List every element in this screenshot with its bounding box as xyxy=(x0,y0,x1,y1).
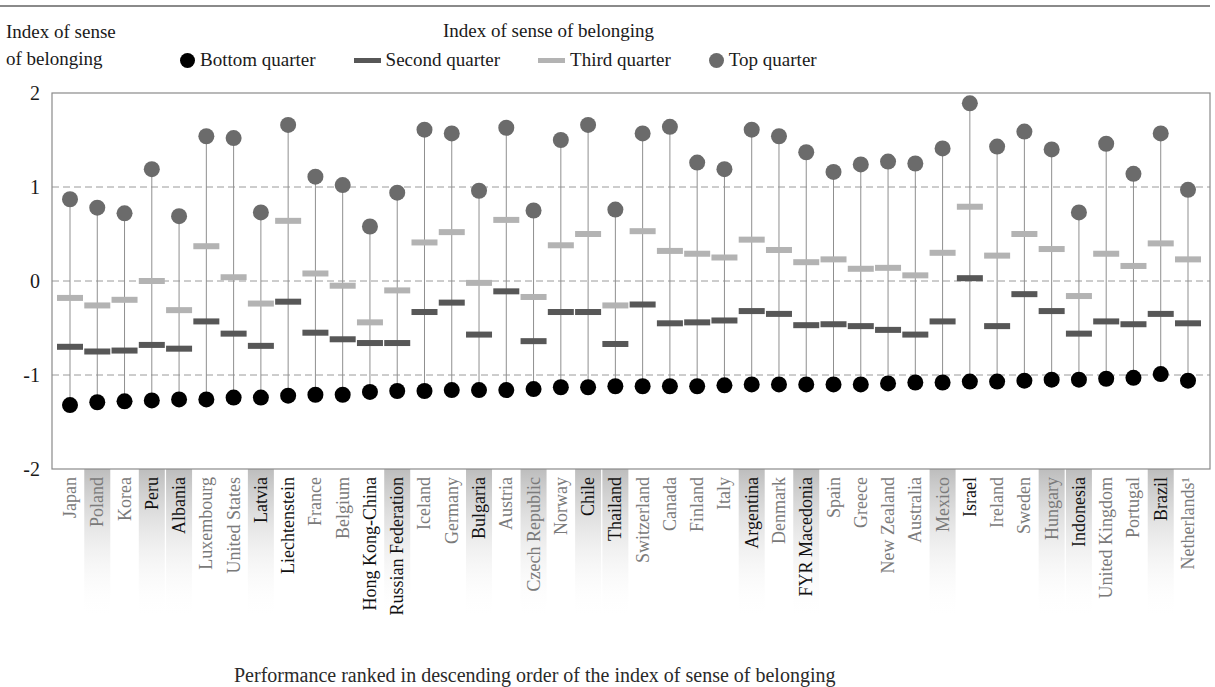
x-axis-country-label: Finland xyxy=(687,477,707,532)
second-quarter-marker xyxy=(384,340,410,346)
second-quarter-marker xyxy=(548,309,574,315)
bottom-quarter-marker xyxy=(471,382,487,398)
x-axis-country-label: Liechtenstein xyxy=(278,477,298,574)
top-quarter-marker xyxy=(798,144,814,160)
top-quarter-marker xyxy=(1098,136,1114,152)
top-quarter-marker xyxy=(389,185,405,201)
country-point-group xyxy=(330,177,356,403)
second-quarter-marker xyxy=(357,340,383,346)
bottom-quarter-marker xyxy=(1125,370,1141,386)
shaded-columns xyxy=(84,469,1173,619)
top-quarter-marker xyxy=(989,139,1005,155)
second-quarter-marker xyxy=(930,318,956,324)
third-quarter-marker xyxy=(1066,293,1092,299)
second-quarter-marker xyxy=(330,336,356,342)
bottom-quarter-marker xyxy=(1098,371,1114,387)
second-quarter-marker xyxy=(739,308,765,314)
x-axis-country-label: Belgium xyxy=(333,477,353,539)
top-quarter-marker xyxy=(689,155,705,171)
second-quarter-marker xyxy=(1093,318,1119,324)
bottom-quarter-marker xyxy=(771,376,787,392)
country-point-group xyxy=(493,120,519,398)
top-quarter-marker xyxy=(907,156,923,172)
x-axis-country-label: France xyxy=(305,477,325,526)
second-quarter-marker xyxy=(248,343,274,349)
third-quarter-marker xyxy=(221,274,247,280)
top-quarter-marker xyxy=(89,200,105,216)
third-quarter-marker xyxy=(248,301,274,307)
bottom-quarter-marker xyxy=(880,375,896,391)
second-quarter-marker xyxy=(493,288,519,294)
x-axis-country-label: Sweden xyxy=(1014,477,1034,534)
x-axis-country-label: Poland xyxy=(87,477,107,527)
second-quarter-marker xyxy=(848,323,874,329)
x-axis-country-label: Ireland xyxy=(987,477,1007,528)
top-quarter-marker xyxy=(471,183,487,199)
y-tick-label: 0 xyxy=(30,270,40,292)
second-quarter-marker xyxy=(575,309,601,315)
second-quarter-marker xyxy=(875,327,901,333)
bottom-quarter-marker xyxy=(853,376,869,392)
third-quarter-marker xyxy=(1093,251,1119,257)
x-axis-country-label: Australia xyxy=(905,477,925,543)
third-quarter-marker xyxy=(902,272,928,278)
second-quarter-marker xyxy=(902,332,928,338)
country-point-group xyxy=(193,128,219,407)
third-quarter-marker xyxy=(193,243,219,249)
second-quarter-marker xyxy=(793,322,819,328)
top-quarter-marker xyxy=(280,117,296,133)
x-axis-country-label: Luxembourg xyxy=(196,477,216,570)
country-point-group xyxy=(548,132,574,395)
x-axis-country-label: Canada xyxy=(660,477,680,531)
top-quarter-marker xyxy=(171,208,187,224)
y-tick-label: 2 xyxy=(30,82,40,104)
country-point-group xyxy=(848,156,874,392)
bottom-quarter-marker xyxy=(935,375,951,391)
bottom-quarter-marker xyxy=(962,374,978,390)
second-quarter-marker xyxy=(630,302,656,308)
top-quarter-marker xyxy=(607,202,623,218)
top-quarter-marker xyxy=(1016,124,1032,140)
chart-caption: Performance ranked in descending order o… xyxy=(234,664,835,687)
country-point-group xyxy=(139,161,165,408)
x-axis-country-label: Portugal xyxy=(1123,477,1143,538)
top-quarter-marker xyxy=(553,132,569,148)
third-quarter-marker xyxy=(930,250,956,256)
third-quarter-marker xyxy=(57,295,83,301)
second-quarter-marker xyxy=(139,342,165,348)
third-quarter-marker xyxy=(1175,256,1201,262)
x-axis-country-label: United States xyxy=(224,477,244,574)
bottom-quarter-marker xyxy=(226,390,242,406)
second-quarter-marker xyxy=(711,317,737,323)
country-point-group xyxy=(984,139,1010,390)
country-point-group xyxy=(902,156,928,391)
x-axis-country-label: Russian Federation xyxy=(387,477,407,615)
country-point-group xyxy=(711,161,737,393)
third-quarter-marker xyxy=(330,283,356,289)
x-axis-country-label: Hong Kong-China xyxy=(360,477,380,611)
country-point-group xyxy=(166,208,192,407)
top-quarter-marker xyxy=(526,203,542,219)
x-axis-labels: JapanPolandKoreaPeruAlbaniaLuxembourgUni… xyxy=(60,477,1198,615)
second-quarter-marker xyxy=(984,323,1010,329)
country-point-group xyxy=(739,122,765,393)
country-point-group xyxy=(411,122,437,399)
x-axis-country-label: Switzerland xyxy=(633,477,653,563)
bottom-quarter-marker xyxy=(716,377,732,393)
country-point-group xyxy=(957,95,983,389)
y-tick-label: -2 xyxy=(23,458,40,480)
second-quarter-marker xyxy=(411,309,437,315)
x-axis-country-label: Bulgaria xyxy=(469,477,489,539)
x-axis-country-label: Greece xyxy=(851,477,871,528)
bottom-quarter-marker xyxy=(689,378,705,394)
third-quarter-marker xyxy=(1039,246,1065,252)
country-point-group xyxy=(84,200,110,411)
country-point-group xyxy=(1148,125,1174,382)
third-quarter-marker xyxy=(848,266,874,272)
bottom-quarter-marker xyxy=(607,378,623,394)
second-quarter-marker xyxy=(112,348,138,354)
top-quarter-marker xyxy=(880,154,896,170)
third-quarter-marker xyxy=(493,217,519,223)
third-quarter-marker xyxy=(384,287,410,293)
